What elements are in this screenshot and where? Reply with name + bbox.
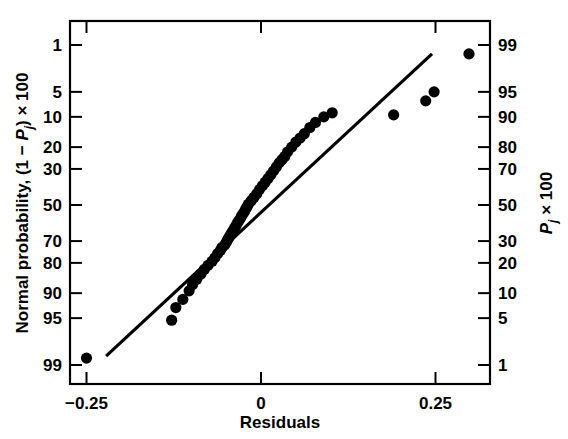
x-tick-label-0: 0 [256,394,265,413]
left-tick-label-1: 1 [53,36,62,55]
right-axis-ticks [478,45,490,365]
chart-canvas: 15102030507080909599 9995908070503020105… [0,0,568,439]
reference-line-segment [106,54,432,356]
y-right-title-symbol: P [537,222,556,234]
left-tick-label-10: 10 [43,108,62,127]
x-tick-label-0.25: 0.25 [419,394,452,413]
right-tick-label-95: 95 [498,83,517,102]
x-axis-ticks [87,372,436,384]
left-tick-label-20: 20 [43,138,62,157]
svg-text:Pj × 100: Pj × 100 [537,172,560,234]
left-tick-label-50: 50 [43,196,62,215]
x-axis-title: Residuals [240,413,320,432]
right-tick-label-50: 50 [498,196,517,215]
right-tick-label-80: 80 [498,138,517,157]
data-point [81,353,92,364]
right-tick-label-99: 99 [498,36,517,55]
data-point [429,86,440,97]
data-point [388,109,399,120]
y-axis-left-title: Normal probability, (1 − Pj) × 100 [13,73,36,334]
y-axis-right-title: Pj × 100 [537,172,560,234]
y-right-title-suffix: × 100 [537,172,556,220]
left-tick-label-95: 95 [43,309,62,328]
x-tick-label-−0.25: −0.25 [65,394,108,413]
reference-line [106,54,432,356]
y-left-title-symbol: P [13,129,32,141]
data-point [327,107,338,118]
left-tick-label-99: 99 [43,356,62,375]
left-tick-label-5: 5 [53,83,62,102]
data-point [166,315,177,326]
right-tick-label-30: 30 [498,232,517,251]
right-axis-tick-labels: 99959080705030201051 [498,36,517,375]
left-tick-label-30: 30 [43,160,62,179]
right-tick-label-1: 1 [498,356,507,375]
left-axis-tick-labels: 15102030507080909599 [43,36,62,375]
left-tick-label-70: 70 [43,232,62,251]
data-point [420,95,431,106]
y-left-title-prefix: Normal probability, (1 − [13,141,32,334]
y-left-title-suffix: ) × 100 [13,73,32,126]
right-tick-label-10: 10 [498,284,517,303]
svg-text:Normal probability, (1 − Pj) ×: Normal probability, (1 − Pj) × 100 [13,73,36,334]
right-tick-label-90: 90 [498,108,517,127]
right-tick-label-70: 70 [498,160,517,179]
top-axis-ticks [87,21,436,33]
right-tick-label-20: 20 [498,254,517,273]
left-tick-label-80: 80 [43,254,62,273]
data-point [463,48,474,59]
left-axis-ticks [70,45,82,365]
x-axis-tick-labels: −0.2500.25 [65,394,452,413]
normal-probability-plot-figure: 15102030507080909599 9995908070503020105… [0,0,568,439]
right-tick-label-5: 5 [498,309,507,328]
data-points [81,48,475,363]
left-tick-label-90: 90 [43,284,62,303]
